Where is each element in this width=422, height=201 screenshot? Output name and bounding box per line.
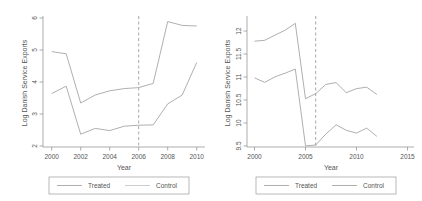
- left-x-tick-2010: 2010: [189, 153, 204, 160]
- left-y-tick-3: 3: [31, 112, 38, 116]
- right-y-tick-11-5: 11.5: [235, 48, 242, 61]
- left-legend-control-label: Control: [156, 182, 178, 189]
- left-y-axis-title: Log Danish Service Exports: [21, 39, 29, 126]
- right-x-tick-labels: 2000 2005 2010 2015: [247, 153, 415, 160]
- right-x-tick-2015: 2015: [400, 153, 415, 160]
- right-y-tick-9-5: 9.5: [235, 141, 242, 150]
- left-x-tick-labels: 2000 2002 2004 2006 2008 2010: [44, 153, 204, 160]
- right-x-axis-title: Year: [324, 164, 339, 171]
- left-chart-svg: Log Danish Service Exports 6 5 4 3 2: [0, 0, 211, 201]
- right-y-axis-title: Log Danish Service Exports: [224, 39, 232, 126]
- right-chart-svg: Log Danish Service Exports 12 11.5 11 10…: [211, 0, 422, 201]
- left-x-tick-2008: 2008: [160, 153, 175, 160]
- left-y-tick-5: 5: [31, 48, 38, 52]
- left-series-control: [52, 22, 197, 103]
- left-x-ticks: [52, 147, 197, 151]
- left-x-tick-2000: 2000: [44, 153, 59, 160]
- left-y-tick-2: 2: [31, 144, 38, 148]
- right-x-tick-2005: 2005: [298, 153, 313, 160]
- right-y-tick-labels: 12 11.5 11 10.5 10 9.5: [235, 27, 242, 151]
- figure-two-panel-line-charts: Log Danish Service Exports 6 5 4 3 2: [0, 0, 422, 201]
- left-legend-treated-label: Treated: [88, 182, 111, 189]
- left-y-ticks: [40, 18, 44, 146]
- right-legend-treated-label: Treated: [295, 182, 318, 189]
- left-x-tick-2006: 2006: [131, 153, 146, 160]
- left-series-treated: [52, 63, 197, 135]
- right-y-tick-10-5: 10.5: [235, 93, 242, 106]
- left-panel: Log Danish Service Exports 6 5 4 3 2: [0, 0, 211, 201]
- right-legend-control-label: Control: [363, 182, 385, 189]
- right-y-tick-10: 10: [235, 119, 242, 127]
- right-panel: Log Danish Service Exports 12 11.5 11 10…: [211, 0, 422, 201]
- left-y-tick-4: 4: [31, 80, 38, 84]
- right-y-ticks: [244, 31, 248, 146]
- left-x-tick-2002: 2002: [73, 153, 88, 160]
- left-x-tick-2004: 2004: [102, 153, 117, 160]
- right-x-ticks: [255, 147, 408, 151]
- left-x-axis-title: Year: [117, 164, 132, 171]
- left-y-tick-labels: 6 5 4 3 2: [31, 16, 38, 148]
- left-y-tick-6: 6: [31, 16, 38, 20]
- right-y-tick-11: 11: [235, 73, 242, 80]
- right-y-tick-12: 12: [235, 27, 242, 35]
- right-x-tick-2000: 2000: [247, 153, 262, 160]
- right-x-tick-2010: 2010: [349, 153, 364, 160]
